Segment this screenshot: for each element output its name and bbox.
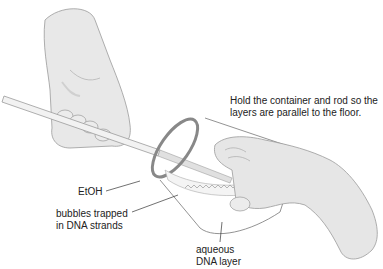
etoh-label: EtOH: [78, 186, 102, 198]
instruction-line-2: layers are parallel to the floor.: [230, 107, 380, 119]
instruction-line-1: Hold the container and rod so the: [230, 95, 380, 107]
etoh-label-text: EtOH: [78, 186, 102, 197]
bubbles-label-line-1: bubbles trapped: [56, 208, 128, 220]
aqueous-label-line-1: aqueous: [196, 244, 241, 256]
bubbles-label-line-2: in DNA strands: [56, 220, 128, 232]
instruction-text: Hold the container and rod so the layers…: [230, 95, 380, 119]
bubbles-label: bubbles trapped in DNA strands: [56, 208, 128, 232]
right-hand-icon: [214, 137, 377, 259]
aqueous-label-line-2: DNA layer: [196, 256, 241, 268]
aqueous-layer-label: aqueous DNA layer: [196, 244, 241, 268]
